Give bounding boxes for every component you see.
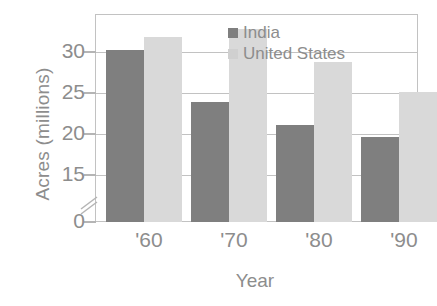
y-tick-label-30: 30 bbox=[39, 40, 85, 61]
legend-label-united-states: United States bbox=[243, 43, 345, 64]
bar-us-80 bbox=[314, 62, 352, 222]
y-tick-label-15: 15 bbox=[39, 163, 85, 184]
bar-india-90 bbox=[361, 137, 399, 222]
legend-label-india: India bbox=[243, 22, 280, 43]
legend-swatch-united-states-icon bbox=[228, 49, 238, 59]
legend: India United States bbox=[228, 22, 345, 64]
legend-item-india: India bbox=[228, 22, 345, 43]
bar-india-70 bbox=[191, 102, 229, 222]
x-tick-label-80: '80 bbox=[284, 228, 354, 252]
x-tick-label-70: '70 bbox=[199, 228, 269, 252]
x-axis-title: Year bbox=[90, 270, 420, 292]
bar-india-60 bbox=[106, 50, 144, 222]
legend-swatch-india-icon bbox=[228, 28, 238, 38]
bar-us-90 bbox=[399, 92, 437, 222]
y-tick-label-20: 20 bbox=[39, 122, 85, 143]
bar-india-80 bbox=[276, 125, 314, 222]
bar-us-60 bbox=[144, 37, 182, 222]
y-tick-label-0: 0 bbox=[39, 210, 85, 231]
x-tick-label-90: '90 bbox=[369, 228, 437, 252]
x-tick-label-60: '60 bbox=[114, 228, 184, 252]
bar-chart: Acres (millions) 30 25 20 15 0 '60 bbox=[0, 0, 437, 306]
y-tick-label-25: 25 bbox=[39, 81, 85, 102]
legend-item-united-states: United States bbox=[228, 43, 345, 64]
